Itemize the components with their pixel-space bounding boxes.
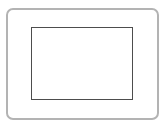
diagram-canvas <box>0 0 165 129</box>
inner-rectangle <box>31 27 133 100</box>
